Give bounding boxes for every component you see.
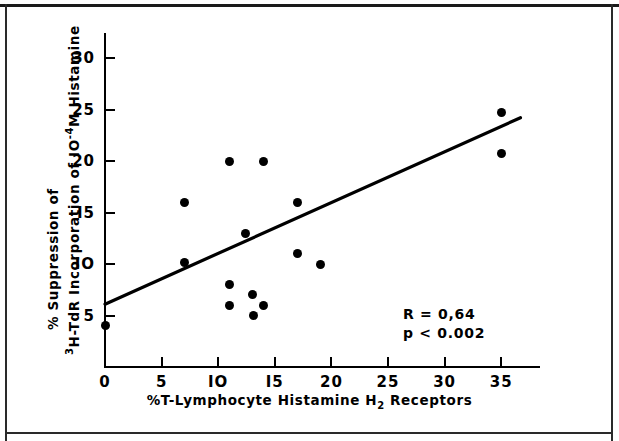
data-point [225, 157, 234, 166]
data-point [101, 321, 110, 330]
y-axis-title-line2: 3H-TdR Incorporation of IO-4M Histamine [64, 25, 82, 355]
x-axis-title-post: Receptors [385, 392, 473, 408]
data-point [249, 311, 258, 320]
data-point [225, 301, 234, 310]
y-axis-title-line1: % Suppression of [45, 188, 61, 330]
data-point [180, 198, 189, 207]
data-point [259, 301, 268, 310]
y-axis-title-line2-pre: H-TdR Incorporation of IO [66, 139, 82, 347]
correlation-value: R = 0,64 [403, 305, 485, 324]
y-axis-title-exponent: -4 [64, 127, 75, 139]
data-point [259, 157, 268, 166]
figure-frame: 5IOI5202530 05IOI520253035 % Suppression… [0, 0, 619, 441]
data-point [497, 108, 506, 117]
regression-line [0, 0, 619, 441]
x-axis-title: %T-Lymphocyte Histamine H2 Receptors [0, 392, 619, 411]
y-axis-title-superscript-3: 3 [64, 347, 75, 355]
data-point [241, 229, 250, 238]
scatter-plot: 5IOI5202530 05IOI520253035 % Suppression… [0, 0, 619, 441]
data-point [497, 149, 506, 158]
data-point [293, 198, 302, 207]
p-value: p < 0.002 [403, 324, 485, 343]
x-axis-title-pre: %T-Lymphocyte Histamine H [147, 392, 378, 408]
y-axis-title-line2-post: M Histamine [66, 25, 82, 127]
statistics-annotation: R = 0,64 p < 0.002 [403, 305, 485, 343]
data-point [316, 260, 325, 269]
x-axis-title-subscript: 2 [377, 400, 385, 411]
